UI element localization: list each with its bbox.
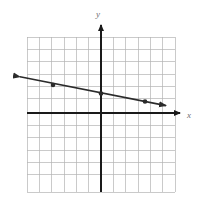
x-axis-label: x: [186, 110, 191, 120]
coordinate-plane-figure: y x: [0, 0, 203, 210]
data-point: [51, 83, 56, 88]
graph-canvas: y x: [0, 0, 203, 210]
data-point: [143, 99, 148, 104]
y-axis-label: y: [95, 9, 100, 19]
data-point: [99, 91, 104, 96]
